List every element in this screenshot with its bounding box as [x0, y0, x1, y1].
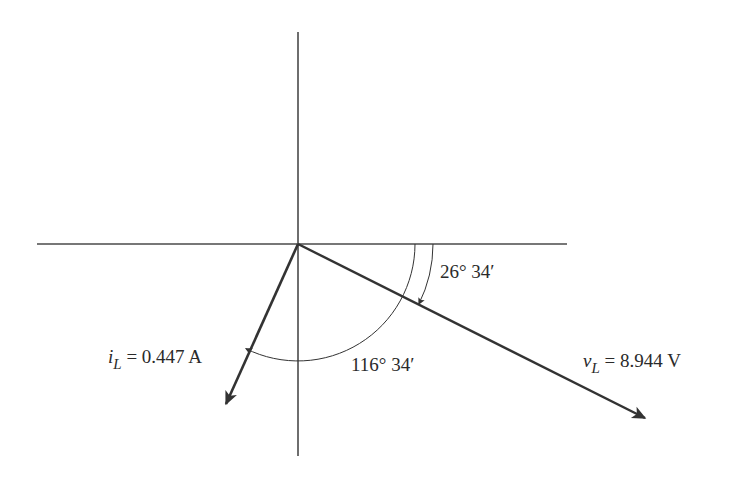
iL-phasor-arrow [226, 244, 298, 404]
angle-arc-vL [419, 244, 433, 304]
iL-subscript: L [113, 356, 121, 372]
angle-label-iL: 116° 34′ [351, 355, 414, 374]
iL-label: iL = 0.447 A [108, 347, 202, 372]
angle-label-vL: 26° 34′ [440, 262, 495, 281]
angle-vL-text: 26° 34′ [440, 261, 495, 282]
vL-subscript: L [591, 360, 599, 376]
vL-equals: = [605, 350, 616, 371]
phasor-diagram-graphic [0, 0, 730, 477]
iL-value: 0.447 A [142, 346, 202, 367]
vL-value: 8.944 V [620, 350, 681, 371]
phasor-diagram: 26° 34′ 116° 34′ iL = 0.447 A vL = 8.944… [0, 0, 730, 477]
angle-iL-text: 116° 34′ [351, 354, 414, 375]
iL-equals: = [126, 346, 137, 367]
vL-label: vL = 8.944 V [583, 351, 681, 376]
